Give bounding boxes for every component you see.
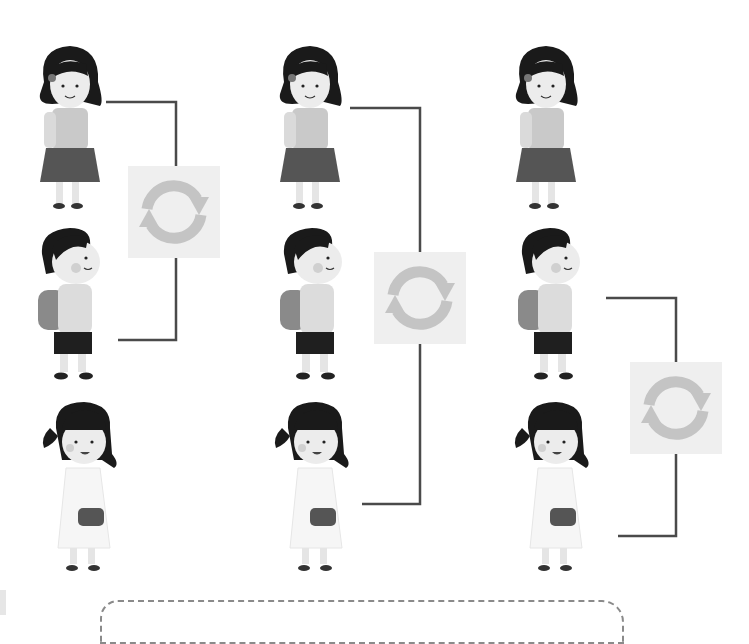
swap-cycle-icon bbox=[135, 173, 213, 251]
girl-bob-hair-figure bbox=[506, 42, 586, 214]
answer-area[interactable] bbox=[100, 600, 624, 644]
girl-ponytail-figure bbox=[40, 398, 122, 578]
girl-bob-hair-figure bbox=[30, 42, 110, 214]
swap-button-col2[interactable] bbox=[374, 252, 466, 344]
boy-backpack-figure bbox=[34, 224, 106, 384]
boy-backpack-figure bbox=[276, 224, 348, 384]
swap-cycle-icon bbox=[381, 259, 459, 337]
worksheet-title: Swap the order bbox=[0, 0, 1, 1]
girl-bob-hair-figure bbox=[270, 42, 350, 214]
swap-cycle-icon bbox=[637, 369, 715, 447]
girl-ponytail-figure bbox=[512, 398, 594, 578]
page-edge-decoration bbox=[0, 590, 6, 615]
boy-backpack-figure bbox=[514, 224, 586, 384]
swap-button-col1[interactable] bbox=[128, 166, 220, 258]
girl-ponytail-figure bbox=[272, 398, 354, 578]
swap-button-col3[interactable] bbox=[630, 362, 722, 454]
